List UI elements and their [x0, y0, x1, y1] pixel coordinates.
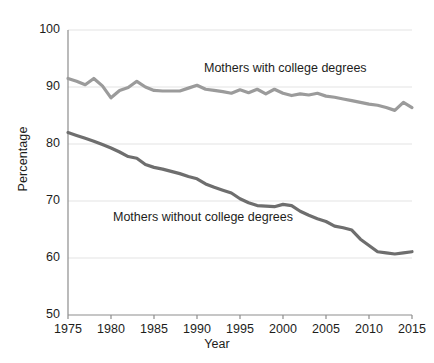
y-tick-label: 90	[26, 79, 60, 93]
x-axis-title: Year	[0, 337, 434, 351]
series-label-without-college: Mothers without college degrees	[113, 210, 293, 224]
x-tick-label: 1985	[134, 322, 174, 336]
x-tick-label: 2010	[349, 322, 389, 336]
x-tick-label: 2005	[306, 322, 346, 336]
x-tick-label: 2015	[392, 322, 432, 336]
y-tick-label: 60	[26, 250, 60, 264]
x-tick-label: 1995	[220, 322, 260, 336]
y-tick-label: 70	[26, 193, 60, 207]
line-chart: 5060708090100 19751980198519901995200020…	[0, 0, 434, 363]
y-tick-label: 80	[26, 136, 60, 150]
y-tick-label: 50	[26, 307, 60, 321]
series-line	[68, 133, 412, 254]
x-tick-label: 1980	[91, 322, 131, 336]
y-tick-label: 100	[26, 22, 60, 36]
x-tick-label: 1990	[177, 322, 217, 336]
series-label-with-college: Mothers with college degrees	[204, 61, 367, 75]
x-tick-label: 1975	[48, 322, 88, 336]
plot-area	[0, 0, 434, 363]
y-axis-title: Percentage	[16, 114, 30, 204]
series-line	[68, 78, 412, 110]
x-tick-label: 2000	[263, 322, 303, 336]
data-series-lines	[68, 78, 412, 254]
